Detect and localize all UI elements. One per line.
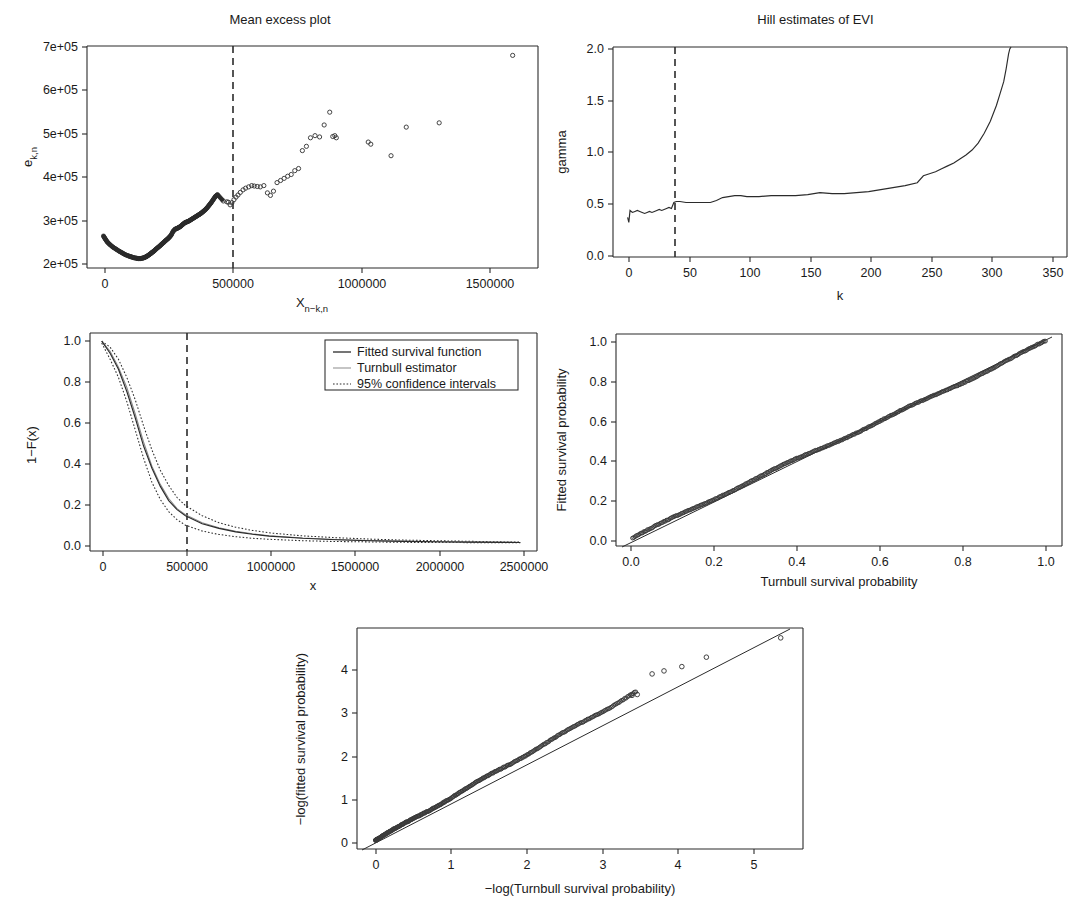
- xtick-label: 2000000: [416, 560, 465, 574]
- scatter-points-qq: [374, 636, 783, 843]
- ytick-label: 0.8: [590, 375, 607, 389]
- x-axis-ticks-qq: 0 1 2 3 4 5: [373, 849, 758, 872]
- x-axis-label: x: [310, 578, 317, 593]
- panel-pp-plot-canvas: 0.0 0.2 0.4 0.6 0.8 1.0 0.0 0.2 0.4 0.6 …: [540, 320, 1091, 620]
- xtick-label: 0: [102, 277, 109, 291]
- data-point: [300, 149, 304, 153]
- ytick-label: 0.4: [590, 454, 607, 468]
- data-point-outlier: [662, 669, 667, 674]
- ytick-label: 6e+05: [43, 83, 78, 97]
- data-point: [268, 193, 272, 197]
- reference-line: [362, 629, 790, 850]
- xtick-label: 2: [524, 858, 531, 872]
- xtick-label: 0.8: [954, 555, 971, 569]
- xtick-label: 500000: [166, 560, 208, 574]
- data-point: [308, 136, 312, 140]
- x-axis-ticks-mean-excess: 0 500000 1000000 1500000: [102, 268, 515, 291]
- panel-survival: 0.0 0.2 0.4 0.6 0.8 1.0 0 500000 1000000…: [0, 320, 560, 620]
- data-point-outlier: [778, 636, 783, 641]
- y-axis-label: ek,n: [20, 147, 39, 167]
- xtick-label: 500000: [212, 277, 254, 291]
- panel-hill: Hill estimates of EVI 0.0 0.5 1.0 1.5 2.…: [540, 0, 1091, 320]
- ytick-label: 4: [341, 663, 348, 677]
- panel-pp-plot: 0.0 0.2 0.4 0.6 0.8 1.0 0.0 0.2 0.4 0.6 …: [540, 320, 1091, 620]
- data-point: [289, 172, 293, 176]
- xtick-label: 1000000: [247, 560, 296, 574]
- ytick-label: 2.0: [587, 42, 604, 56]
- ytick-label: 1.0: [590, 335, 607, 349]
- panel-hill-title: Hill estimates of EVI: [540, 12, 1091, 27]
- ytick-label: 0.6: [590, 415, 607, 429]
- y-axis-ticks-hill: 0.0 0.5 1.0 1.5 2.0: [587, 42, 613, 263]
- legend-item-label: 95% confidence intervals: [357, 377, 496, 391]
- data-point: [404, 125, 408, 129]
- panel-hill-canvas: 0.0 0.5 1.0 1.5 2.0 0 50 100 150 200 250…: [540, 0, 1091, 320]
- panel-mean-excess: Mean excess plot 2e+05 3e+05 4e+05 5e+05…: [0, 0, 560, 320]
- ytick-label: 0.2: [590, 494, 607, 508]
- data-point-outlier: [650, 672, 655, 677]
- xtick-label: 0.2: [705, 555, 722, 569]
- ytick-label: 1: [341, 793, 348, 807]
- xtick-label: 1: [448, 858, 455, 872]
- y-axis-label: Fitted survival probability: [554, 368, 569, 512]
- y-axis-ticks-qq: 0 1 2 3 4: [341, 663, 357, 850]
- xtick-label: 1500000: [331, 560, 380, 574]
- y-axis-ticks-pp: 0.0 0.2 0.4 0.6 0.8 1.0: [590, 335, 616, 548]
- x-axis-label: k: [837, 288, 844, 303]
- y-axis-ticks-survival: 0.0 0.2 0.4 0.6 0.8 1.0: [64, 334, 90, 553]
- xtick-label: 300: [982, 266, 1003, 280]
- x-axis-label: −log(Turnbull survival probability): [485, 881, 676, 896]
- ytick-label: 2e+05: [43, 257, 78, 271]
- x-axis-ticks-hill: 0 50 100 150 200 250 300 350: [626, 257, 1064, 280]
- data-point: [322, 123, 326, 127]
- data-point: [437, 121, 441, 125]
- ytick-label: 0.6: [64, 416, 81, 430]
- ytick-label: 7e+05: [43, 40, 78, 54]
- y-axis-label: −log(fitted survival probability): [293, 653, 308, 825]
- x-axis-ticks-survival: 0 500000 1000000 1500000 2000000 2500000: [100, 551, 549, 574]
- legend-item-label: Turnbull estimator: [357, 361, 457, 375]
- panel-survival-canvas: 0.0 0.2 0.4 0.6 0.8 1.0 0 500000 1000000…: [0, 320, 560, 620]
- data-point: [220, 198, 224, 202]
- ytick-label: 0.0: [587, 249, 604, 263]
- panel-mean-excess-canvas: 2e+05 3e+05 4e+05 5e+05 6e+05 7e+05 0 50…: [0, 0, 560, 320]
- xtick-label: 0: [373, 858, 380, 872]
- xtick-label: 0: [626, 266, 633, 280]
- hill-estimate-curve: [628, 47, 1011, 222]
- xtick-label: 0.0: [622, 555, 639, 569]
- xtick-label: 250: [922, 266, 943, 280]
- xtick-label: 100: [740, 266, 761, 280]
- y-axis-label: gamma: [554, 130, 569, 174]
- data-point: [328, 110, 332, 114]
- xtick-label: 1000000: [338, 277, 387, 291]
- data-point: [317, 135, 321, 139]
- data-point-outlier: [704, 655, 709, 660]
- y-axis-label: 1−F(x): [24, 426, 39, 464]
- xtick-label: 1.0: [1037, 555, 1054, 569]
- panel-mean-excess-title: Mean excess plot: [0, 12, 560, 27]
- ytick-label: 0.2: [64, 498, 81, 512]
- data-point: [296, 166, 300, 170]
- y-axis-ticks-mean-excess: 2e+05 3e+05 4e+05 5e+05 6e+05 7e+05: [43, 40, 87, 271]
- xtick-label: 350: [1043, 266, 1064, 280]
- xtick-label: 0: [100, 560, 107, 574]
- xtick-label: 50: [683, 266, 697, 280]
- ytick-label: 1.0: [587, 145, 604, 159]
- x-axis-ticks-pp: 0.0 0.2 0.4 0.6 0.8 1.0: [622, 546, 1054, 569]
- x-axis-label: Turnbull survival probability: [760, 574, 918, 589]
- ytick-label: 1.0: [64, 334, 81, 348]
- data-point: [511, 53, 515, 57]
- ytick-label: 2: [341, 750, 348, 764]
- ytick-label: 0.0: [64, 539, 81, 553]
- data-point-outlier: [680, 664, 685, 669]
- xtick-label: 200: [861, 266, 882, 280]
- x-axis-label: Xn−k,n: [296, 295, 328, 314]
- legend: Fitted survival function Turnbull estima…: [325, 340, 518, 391]
- xtick-label: 5: [751, 858, 758, 872]
- scatter-points-mean-excess: [101, 53, 514, 260]
- panel-qq-log-canvas: 0 1 2 3 4 0 1 2 3 4 5 −lo: [250, 610, 870, 915]
- xtick-label: 0.6: [871, 555, 888, 569]
- ytick-label: 1.5: [587, 94, 604, 108]
- xtick-label: 4: [675, 858, 682, 872]
- xtick-label: 150: [801, 266, 822, 280]
